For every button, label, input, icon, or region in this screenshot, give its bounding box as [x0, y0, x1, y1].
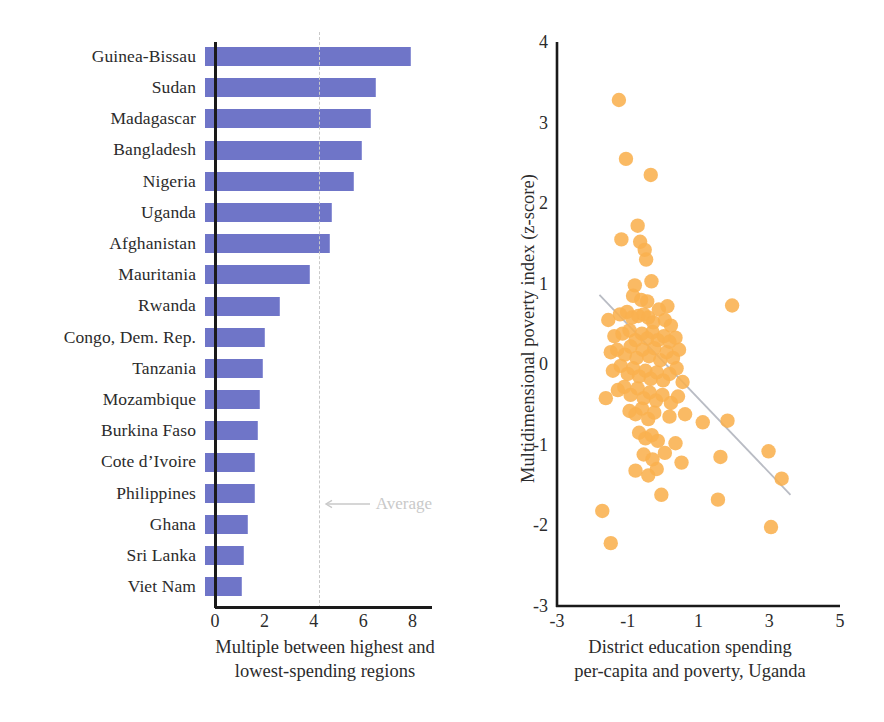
- scatter-point[interactable]: [669, 361, 683, 375]
- bar-row[interactable]: Mozambique: [0, 387, 260, 412]
- bar-row[interactable]: Viet Nam: [0, 574, 242, 599]
- scatter-point[interactable]: [713, 450, 727, 464]
- bar-category-label: Ghana: [0, 516, 205, 534]
- bar-row[interactable]: Cote d’Ivoire: [0, 450, 255, 475]
- bar-category-label: Sri Lanka: [0, 547, 205, 565]
- scatter-point[interactable]: [599, 391, 613, 405]
- bar-track: [205, 512, 248, 537]
- scatter-y-tick: 3: [539, 112, 548, 133]
- bar-track: [205, 44, 411, 69]
- bar-row[interactable]: Guinea-Bissau: [0, 44, 411, 69]
- scatter-point[interactable]: [774, 472, 788, 486]
- bar-track: [205, 138, 362, 163]
- scatter-point[interactable]: [614, 232, 628, 246]
- bar-track: [205, 231, 330, 256]
- bar-row[interactable]: Bangladesh: [0, 138, 362, 163]
- scatter-point[interactable]: [671, 389, 685, 403]
- scatter-chart-panel: 43210-1-2-3 -3-1135 Multidimensional pov…: [470, 0, 884, 722]
- bar-row[interactable]: Ghana: [0, 512, 248, 537]
- left-arrow-icon: [323, 499, 371, 509]
- bar-row[interactable]: Afghanistan: [0, 231, 330, 256]
- scatter-point[interactable]: [650, 462, 664, 476]
- bar-category-label: Mozambique: [0, 391, 205, 409]
- scatter-point[interactable]: [668, 436, 682, 450]
- scatter-x-axis-title-line2: per-capita and poverty, Uganda: [574, 661, 806, 681]
- bar-chart-x-axis-title-line1: Multiple between highest and: [215, 637, 434, 657]
- bar-category-label: Burkina Faso: [0, 422, 205, 440]
- scatter-point[interactable]: [720, 413, 734, 427]
- bar-chart-x-axis-title: Multiple between highest and lowest-spen…: [195, 636, 455, 683]
- scatter-y-tick: -3: [533, 596, 548, 617]
- scatter-point[interactable]: [654, 488, 668, 502]
- scatter-point[interactable]: [639, 252, 653, 266]
- scatter-point[interactable]: [725, 298, 739, 312]
- scatter-y-tick: 0: [539, 354, 548, 375]
- scatter-x-tick: -3: [550, 611, 565, 632]
- bar-row[interactable]: Congo, Dem. Rep.: [0, 325, 265, 350]
- bar-track: [205, 450, 255, 475]
- scatter-point[interactable]: [612, 93, 626, 107]
- scatter-point[interactable]: [644, 274, 658, 288]
- bar-chart-x-tick: 8: [408, 611, 417, 632]
- bar-track: [205, 574, 242, 599]
- scatter-point[interactable]: [678, 407, 692, 421]
- bar-track: [205, 481, 255, 506]
- bar-row[interactable]: Philippines: [0, 481, 255, 506]
- bar-row[interactable]: Nigeria: [0, 169, 354, 194]
- scatter-point[interactable]: [644, 168, 658, 182]
- bar-row[interactable]: Madagascar: [0, 106, 371, 131]
- scatter-axes: [556, 42, 840, 607]
- bar-rect[interactable]: [205, 577, 242, 596]
- scatter-point[interactable]: [672, 343, 686, 357]
- average-reference-line: [319, 32, 321, 608]
- scatter-point[interactable]: [662, 409, 676, 423]
- bar-chart-y-axis-line: [214, 42, 217, 608]
- figure-container: Guinea-BissauSudanMadagascarBangladeshNi…: [0, 0, 884, 722]
- bar-rect[interactable]: [205, 421, 258, 440]
- scatter-point[interactable]: [658, 446, 672, 460]
- scatter-point[interactable]: [674, 455, 688, 469]
- bar-rect[interactable]: [205, 203, 332, 222]
- bar-rect[interactable]: [205, 141, 362, 160]
- bar-track: [205, 169, 354, 194]
- bar-rect[interactable]: [205, 78, 376, 97]
- bar-rect[interactable]: [205, 47, 411, 66]
- scatter-point[interactable]: [647, 405, 661, 419]
- bar-row[interactable]: Uganda: [0, 200, 332, 225]
- scatter-point[interactable]: [675, 375, 689, 389]
- scatter-point[interactable]: [640, 294, 654, 308]
- bar-rect[interactable]: [205, 453, 255, 472]
- scatter-point[interactable]: [604, 536, 618, 550]
- scatter-point[interactable]: [595, 504, 609, 518]
- scatter-point[interactable]: [630, 219, 644, 233]
- bar-track: [205, 75, 376, 100]
- bar-row[interactable]: Rwanda: [0, 294, 280, 319]
- scatter-point[interactable]: [628, 463, 642, 477]
- bar-rect[interactable]: [205, 515, 248, 534]
- bar-rect[interactable]: [205, 484, 255, 503]
- bar-rect[interactable]: [205, 109, 371, 128]
- bar-category-label: Sudan: [0, 79, 205, 97]
- scatter-point[interactable]: [764, 520, 778, 534]
- bar-rect[interactable]: [205, 546, 244, 565]
- bar-row[interactable]: Burkina Faso: [0, 418, 258, 443]
- scatter-point[interactable]: [761, 444, 775, 458]
- scatter-x-tick: 1: [694, 611, 703, 632]
- bar-row[interactable]: Mauritania: [0, 262, 310, 287]
- bar-row[interactable]: Sri Lanka: [0, 543, 244, 568]
- bar-chart-x-tick: 0: [211, 611, 220, 632]
- scatter-point[interactable]: [668, 331, 682, 345]
- scatter-x-tick: 5: [836, 611, 845, 632]
- scatter-y-tick: 1: [539, 273, 548, 294]
- bar-category-label: Cote d’Ivoire: [0, 453, 205, 471]
- scatter-point[interactable]: [711, 492, 725, 506]
- bar-row[interactable]: Tanzania: [0, 356, 263, 381]
- scatter-point[interactable]: [696, 415, 710, 429]
- bar-rect[interactable]: [205, 172, 354, 191]
- bar-category-label: Guinea-Bissau: [0, 48, 205, 66]
- bar-rect[interactable]: [205, 265, 310, 284]
- scatter-point[interactable]: [619, 152, 633, 166]
- bar-category-label: Rwanda: [0, 297, 205, 315]
- scatter-point[interactable]: [651, 434, 665, 448]
- bar-rect[interactable]: [205, 234, 330, 253]
